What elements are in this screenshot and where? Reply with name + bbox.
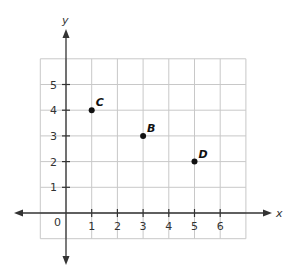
x-tick-label: 3: [140, 220, 147, 233]
coordinate-plane: x y 0 12345612345 CBD: [0, 0, 291, 272]
x-tick-label: 1: [88, 220, 95, 233]
point-d: [192, 159, 198, 165]
x-tick-label: 5: [191, 220, 198, 233]
point-b: [140, 133, 146, 139]
y-tick-label: 2: [50, 156, 57, 169]
x-axis-right-arrow-icon: [263, 210, 272, 217]
y-tick-label: 1: [50, 181, 57, 194]
y-tick-label: 3: [50, 130, 57, 143]
point-label-b: B: [147, 122, 155, 135]
data-points: CBD: [89, 96, 208, 164]
y-axis-up-arrow-icon: [63, 29, 70, 38]
y-tick-label: 5: [50, 79, 57, 92]
point-label-d: D: [199, 148, 208, 161]
y-axis-label: y: [61, 14, 69, 27]
x-axis-label: x: [275, 207, 283, 220]
point-c: [89, 107, 95, 113]
x-tick-label: 6: [217, 220, 224, 233]
y-tick-label: 4: [50, 104, 57, 117]
point-label-c: C: [96, 96, 104, 109]
x-axis-left-arrow-icon: [14, 210, 23, 217]
origin-label: 0: [54, 216, 61, 229]
x-tick-label: 2: [114, 220, 121, 233]
x-tick-label: 4: [165, 220, 172, 233]
y-axis-down-arrow-icon: [63, 256, 70, 265]
